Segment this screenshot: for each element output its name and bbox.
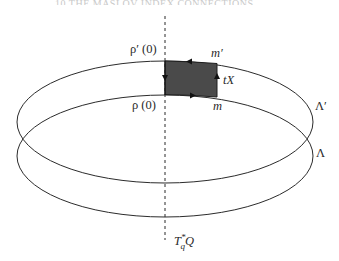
label-lambda-prime: Λ′ bbox=[315, 99, 327, 113]
label-m: m bbox=[213, 99, 222, 113]
label-lambda: Λ bbox=[316, 146, 325, 160]
fiber-Q: Q bbox=[185, 234, 194, 248]
label-m-prime: m′ bbox=[211, 46, 223, 60]
label-cotangent-fiber: T*qQ bbox=[174, 232, 194, 251]
label-tX: tX bbox=[223, 73, 235, 87]
lagrangian-diagram: ρ′ (0) ρ (0) m′ m tX Λ′ Λ T*qQ bbox=[0, 0, 339, 261]
shaded-strip bbox=[165, 61, 217, 97]
label-rho-zero: ρ (0) bbox=[132, 98, 156, 112]
label-rho-prime-zero: ρ′ (0) bbox=[130, 42, 157, 56]
